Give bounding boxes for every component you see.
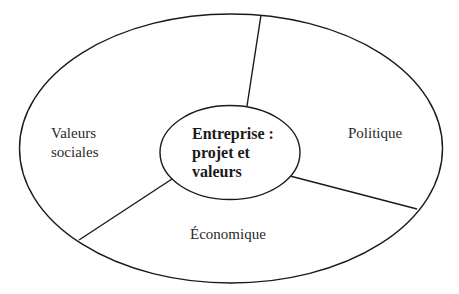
center-label-line-3: valeurs: [192, 163, 242, 180]
sector-economique: Économique: [190, 226, 266, 242]
diagram-canvas: Entreprise : projet et valeurs Valeurs s…: [0, 0, 459, 294]
divider-top: [247, 15, 261, 106]
sector-politique: Politique: [348, 125, 403, 141]
sector-politique-label: Politique: [348, 125, 403, 141]
sector-valeurs-sociales: Valeurs sociales: [51, 125, 99, 160]
sector-economique-label: Économique: [190, 226, 266, 242]
center-label-line-2: projet et: [192, 144, 251, 162]
center-label-line-1: Entreprise :: [192, 125, 274, 143]
sector-valeurs-sociales-line-1: Valeurs: [51, 125, 96, 141]
divider-lower-left: [79, 179, 172, 240]
divider-lower-right: [290, 176, 417, 209]
sector-valeurs-sociales-line-2: sociales: [51, 144, 99, 160]
